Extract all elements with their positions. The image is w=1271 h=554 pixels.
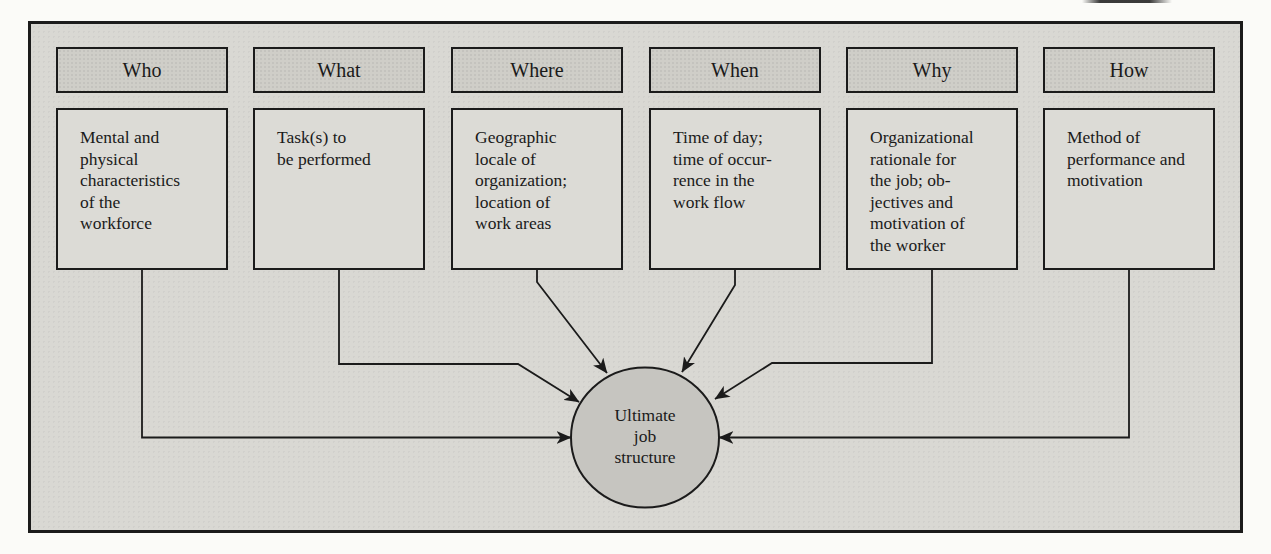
description-box-when: Time of day; time of occur- rence in the… xyxy=(649,108,821,270)
description-box-what: Task(s) to be performed xyxy=(253,108,425,270)
header-label-when: When xyxy=(711,59,759,82)
arrow-why-to-circle xyxy=(715,270,932,399)
header-label-who: Who xyxy=(123,59,162,82)
column-when: When Time of day; time of occur- rence i… xyxy=(649,47,821,270)
header-box-who: Who xyxy=(56,47,228,93)
arrow-where-to-circle xyxy=(537,270,607,373)
print-crop-artifact xyxy=(1082,0,1172,3)
header-box-when: When xyxy=(649,47,821,93)
column-what: What Task(s) to be performed xyxy=(253,47,425,270)
header-box-what: What xyxy=(253,47,425,93)
header-label-what: What xyxy=(317,59,360,82)
description-box-why: Organizational rationale for the job; ob… xyxy=(846,108,1018,270)
description-text-what: Task(s) to be performed xyxy=(277,127,413,170)
diagram-frame: Ultimate job structure Who Mental and ph… xyxy=(28,21,1243,533)
arrow-when-to-circle xyxy=(682,270,735,372)
column-who: Who Mental and physical characteristics … xyxy=(56,47,228,270)
description-text-how: Method of performance and motivation xyxy=(1067,127,1203,192)
description-text-who: Mental and physical characteristics of t… xyxy=(80,127,216,235)
header-box-where: Where xyxy=(451,47,623,93)
description-box-who: Mental and physical characteristics of t… xyxy=(56,108,228,270)
header-label-how: How xyxy=(1110,59,1149,82)
arrow-who-to-circle xyxy=(142,270,571,438)
description-text-when: Time of day; time of occur- rence in the… xyxy=(673,127,809,213)
description-text-why: Organizational rationale for the job; ob… xyxy=(870,127,1006,256)
description-text-where: Geographic locale of organization; locat… xyxy=(475,127,611,235)
header-box-why: Why xyxy=(846,47,1018,93)
column-why: Why Organizational rationale for the job… xyxy=(846,47,1018,270)
description-box-where: Geographic locale of organization; locat… xyxy=(451,108,623,270)
scanned-page: Ultimate job structure Who Mental and ph… xyxy=(0,0,1271,554)
column-how: How Method of performance and motivation xyxy=(1043,47,1215,270)
description-box-how: Method of performance and motivation xyxy=(1043,108,1215,270)
header-box-how: How xyxy=(1043,47,1215,93)
column-where: Where Geographic locale of organization;… xyxy=(451,47,623,270)
arrow-how-to-circle xyxy=(719,270,1129,438)
circle-label: Ultimate job structure xyxy=(570,405,720,468)
header-label-where: Where xyxy=(510,59,563,82)
header-label-why: Why xyxy=(913,59,952,82)
